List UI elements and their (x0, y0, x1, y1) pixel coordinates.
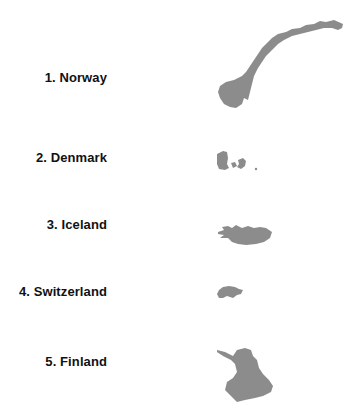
rank-label-iceland: 3. Iceland (47, 217, 107, 232)
denmark-silhouette-icon (215, 150, 259, 174)
finland-silhouette-icon (215, 346, 279, 404)
iceland-silhouette-icon (216, 222, 274, 248)
rank-label-norway: 1. Norway (45, 70, 107, 85)
rank-label-finland: 5. Finland (45, 354, 107, 369)
norway-silhouette-icon (216, 18, 346, 110)
switzerland-silhouette-icon (215, 284, 245, 300)
rank-label-denmark: 2. Denmark (36, 150, 107, 165)
rank-label-switzerland: 4. Switzerland (19, 284, 107, 299)
